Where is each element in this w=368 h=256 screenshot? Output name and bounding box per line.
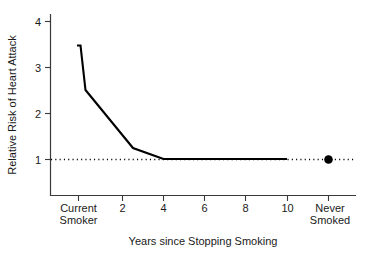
never-smoked-marker-dot [324,155,333,164]
chart-container: 4 3 2 1 Current Smoker 2 4 6 8 10 Never … [0,0,368,256]
x-tick-label-smoked: Smoked [310,214,350,226]
x-tick-label-smoker: Smoker [60,214,98,226]
x-tick-label-current: Current [60,202,97,214]
x-tick-label-never: Never [315,202,345,214]
y-axis-title: Relative Risk of Heart Attack [6,35,18,175]
y-tick-label-4: 4 [35,16,41,28]
x-axis-title: Years since Stopping Smoking [129,235,278,247]
y-tick-label-3: 3 [35,62,41,74]
x-tick-label-10: 10 [281,202,293,214]
x-tick-label-6: 6 [201,202,207,214]
x-tick-label-8: 8 [242,202,248,214]
x-axis-tick-labels: Current Smoker 2 4 6 8 10 Never Smoked [60,202,351,226]
x-tick-label-2: 2 [119,202,125,214]
y-axis-tick-labels: 4 3 2 1 [35,16,41,166]
y-tick-label-2: 2 [35,108,41,120]
risk-series-line [77,46,287,160]
x-tick-label-4: 4 [160,202,166,214]
y-tick-label-1: 1 [35,154,41,166]
relative-risk-line-chart: 4 3 2 1 Current Smoker 2 4 6 8 10 Never … [0,0,368,256]
